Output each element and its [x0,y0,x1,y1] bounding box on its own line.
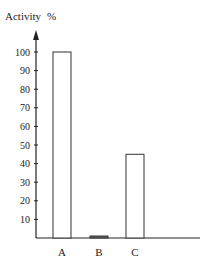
x-category-label: C [131,246,138,258]
bar-c [126,154,144,238]
y-tick-label: 100 [15,47,30,58]
y-tick-label: 80 [20,84,30,95]
y-tick-label: 70 [20,102,30,113]
y-tick-label: 40 [20,158,30,169]
bar-chart: 102030405060708090100ABC [0,0,207,266]
bars [53,52,144,238]
bar-a [53,52,71,238]
y-tick-label: 50 [20,140,30,151]
y-axis-arrow-icon [33,30,39,40]
y-tick-label: 90 [20,65,30,76]
bar-b [90,236,108,238]
x-category-label: A [58,246,66,258]
x-category-label: B [95,246,102,258]
y-tick-label: 30 [20,177,30,188]
y-tick-label: 60 [20,121,30,132]
y-tick-label: 20 [20,195,30,206]
y-tick-label: 10 [20,214,30,225]
labels: 102030405060708090100ABC [15,47,139,259]
